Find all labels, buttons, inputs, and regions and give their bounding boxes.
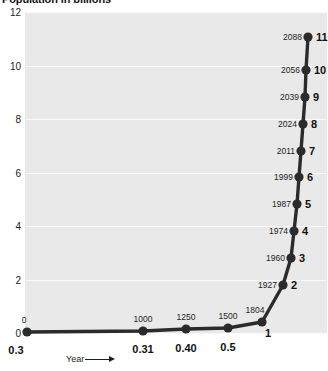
- point-year-label: 1960: [266, 253, 285, 263]
- arrow-right-icon: [85, 356, 115, 363]
- point-value-label: 7: [309, 145, 315, 157]
- y-axis-tick: 0: [15, 328, 21, 339]
- y-axis-tick: 12: [10, 7, 21, 18]
- point-value-label: 6: [307, 171, 313, 183]
- point-value-label: 0.31: [132, 343, 153, 355]
- gridline: [25, 333, 327, 334]
- y-axis-tick: 6: [15, 167, 21, 178]
- y-axis: 12 10 8 6 4 2 0: [0, 12, 25, 333]
- point-year-label: 2088: [283, 32, 302, 42]
- y-axis-tick: 8: [15, 114, 21, 125]
- point-value-label: 1: [265, 327, 271, 339]
- point-year-label: 1804: [246, 305, 265, 315]
- point-year-label: 1500: [219, 311, 238, 321]
- point-value-label: 5: [305, 198, 311, 210]
- point-year-label: 2011: [277, 146, 295, 156]
- point-value-label: 0.5: [220, 341, 235, 353]
- point-value-label: 11: [316, 31, 328, 43]
- gridline: [25, 12, 327, 13]
- point-year-label: 1000: [134, 314, 153, 324]
- point-value-label: 4: [302, 225, 308, 237]
- point-value-label: 8: [311, 118, 317, 130]
- y-axis-tick: 2: [15, 274, 21, 285]
- y-axis-tick: 4: [15, 221, 21, 232]
- point-value-label: 2: [291, 279, 297, 291]
- gridline: [25, 280, 327, 281]
- point-value-label: 10: [314, 64, 326, 76]
- point-year-label: 2024: [278, 119, 297, 129]
- point-year-label: 1987: [272, 199, 291, 209]
- point-year-label: 2056: [281, 65, 300, 75]
- y-axis-tick: 10: [10, 60, 21, 71]
- point-year-label: 0: [22, 315, 27, 325]
- point-value-label: 3: [299, 252, 305, 264]
- point-value-label: 0.40: [175, 342, 196, 354]
- point-value-label: 9: [313, 91, 319, 103]
- point-year-label: 1974: [269, 226, 288, 236]
- point-year-label: 1999: [274, 172, 293, 182]
- chart-title: Population in billions: [2, 0, 111, 5]
- point-year-label: 1250: [177, 312, 196, 322]
- x-axis-label-text: Year: [66, 354, 84, 364]
- point-year-label: 2039: [280, 92, 299, 102]
- point-year-label: 1927: [258, 280, 277, 290]
- point-value-label: 0.3: [8, 344, 23, 356]
- x-axis-label: Year: [66, 354, 115, 364]
